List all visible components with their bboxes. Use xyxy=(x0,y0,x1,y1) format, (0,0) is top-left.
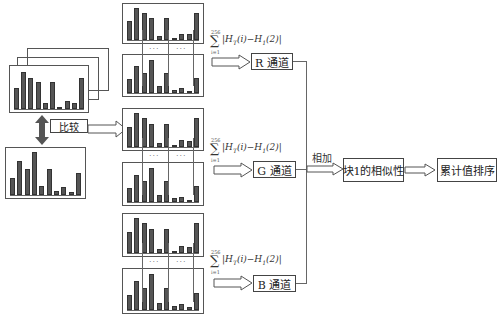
histogram-bar xyxy=(39,186,44,195)
histogram-bar xyxy=(172,90,177,93)
g-connector-line xyxy=(142,138,143,195)
histogram-bar xyxy=(149,168,154,202)
histogram-bar xyxy=(172,251,177,253)
r-ellipsis-2: ··· xyxy=(176,44,187,53)
g-formula-expression: |HT(i)−H1(2)| xyxy=(222,142,282,154)
b-formula-expression: |HT(i)−H1(2)| xyxy=(222,254,282,266)
histogram-bar xyxy=(149,229,154,253)
g-top-histogram xyxy=(127,111,199,148)
b-top-histogram-frame xyxy=(122,213,204,257)
g-ellipsis-1: ··· xyxy=(149,151,160,160)
r-top-histogram-frame xyxy=(122,3,204,44)
g-connector-line xyxy=(168,138,169,195)
histogram-bar xyxy=(179,304,184,310)
histogram-bar xyxy=(149,60,154,93)
query-histogram xyxy=(10,150,81,196)
histogram-bar xyxy=(14,88,19,109)
histogram-bar xyxy=(179,88,184,93)
b-connector-line xyxy=(193,243,194,302)
b-ellipsis-2: ··· xyxy=(176,257,187,266)
b-bottom-histogram xyxy=(127,271,199,311)
histogram-bar xyxy=(127,188,132,202)
histogram-bar xyxy=(194,293,199,310)
sort-box: 累计值排序 xyxy=(437,158,497,182)
histogram-bar xyxy=(172,38,177,40)
histogram-bar xyxy=(127,232,132,253)
histogram-bar xyxy=(187,91,192,93)
similarity-box: 块1的相似性 xyxy=(343,158,404,182)
b-connector-line xyxy=(168,243,169,302)
b-connector-line xyxy=(142,243,143,302)
histogram-bar xyxy=(187,141,192,147)
r-channel-box: R 通道 xyxy=(251,53,293,70)
reference-histogram-frame xyxy=(9,65,89,113)
sort-hollow-arrow-icon xyxy=(405,164,437,176)
g-bottom-histogram xyxy=(127,165,199,203)
histogram-bar xyxy=(172,198,177,202)
r-channel-label: R 通道 xyxy=(255,54,289,70)
histogram-bar xyxy=(17,161,22,195)
add-hollow-arrow-icon xyxy=(307,163,345,175)
histogram-bar xyxy=(134,8,139,40)
histogram-bar xyxy=(72,103,77,109)
histogram-bar xyxy=(28,78,33,109)
histogram-bar xyxy=(194,223,199,253)
histogram-bar xyxy=(157,303,162,310)
histogram-bar xyxy=(157,249,162,253)
histogram-bar xyxy=(21,72,26,109)
histogram-bar xyxy=(194,13,199,40)
histogram-bar xyxy=(179,197,184,202)
reference-histogram xyxy=(14,68,84,110)
r-bus-connector xyxy=(293,61,307,62)
b-top-histogram xyxy=(127,216,199,254)
histogram-bar xyxy=(149,274,154,310)
histogram-bar xyxy=(187,34,192,40)
histogram-bar xyxy=(134,175,139,202)
g-connector-line xyxy=(193,138,194,195)
r-bottom-histogram-frame xyxy=(122,54,204,97)
r-connector-line xyxy=(168,30,169,86)
b-channel-label: B 通道 xyxy=(258,276,292,292)
histogram-bar xyxy=(172,306,177,310)
g-bottom-histogram-frame xyxy=(122,162,204,206)
sort-label: 累计值排序 xyxy=(440,162,495,178)
histogram-bar xyxy=(134,113,139,147)
double-arrow-icon xyxy=(34,115,50,145)
histogram-bar xyxy=(127,79,132,93)
r-connector-line xyxy=(193,30,194,86)
histogram-bar xyxy=(187,247,192,253)
histogram-bar xyxy=(69,192,74,195)
histogram-bar xyxy=(149,18,154,40)
g-hollow-arrow-icon xyxy=(214,163,254,177)
r-connector-line xyxy=(142,30,143,86)
r-ellipsis-1: ··· xyxy=(149,44,160,53)
histogram-bar xyxy=(54,191,59,195)
histogram-bar xyxy=(32,152,37,195)
b-ellipsis-1: ··· xyxy=(149,257,160,266)
histogram-bar xyxy=(179,140,184,147)
r-formula-expression: |HT(i)−H1(2)| xyxy=(222,34,282,46)
histogram-bar xyxy=(76,173,81,195)
histogram-bar xyxy=(127,21,132,40)
histogram-bar xyxy=(10,178,15,195)
histogram-bar xyxy=(50,82,55,109)
histogram-bar xyxy=(79,78,84,109)
compare-label: 比较 xyxy=(59,119,79,134)
histogram-bar xyxy=(47,169,52,195)
histogram-bar xyxy=(179,246,184,253)
histogram-bar xyxy=(43,103,48,109)
histogram-bar xyxy=(187,307,192,310)
histogram-bar xyxy=(25,169,30,195)
histogram-bar xyxy=(57,107,62,109)
histogram-bar xyxy=(157,86,162,93)
histogram-bar xyxy=(127,295,132,310)
g-ellipsis-2: ··· xyxy=(176,151,187,160)
g-channel-box: G 通道 xyxy=(253,161,296,178)
histogram-bar xyxy=(194,78,199,93)
histogram-bar xyxy=(127,127,132,147)
r-bottom-histogram xyxy=(127,57,199,94)
similarity-label: 块1的相似性 xyxy=(343,162,405,178)
histogram-bar xyxy=(194,186,199,202)
histogram-bar xyxy=(134,218,139,253)
compare-box: 比较 xyxy=(50,119,88,133)
